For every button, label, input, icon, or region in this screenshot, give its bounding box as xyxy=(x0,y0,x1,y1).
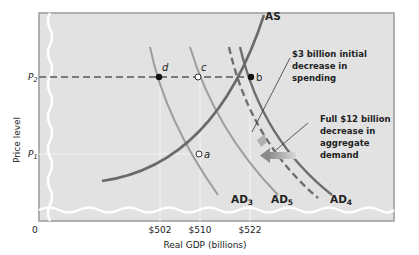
x-axis-title: Real GDP (billions) xyxy=(163,240,246,250)
y-axis-title: Price level xyxy=(12,117,22,163)
point-a xyxy=(196,151,202,157)
as-label: AS xyxy=(265,10,281,22)
point-d xyxy=(156,74,162,80)
svg-text:demand: demand xyxy=(320,150,359,160)
x-tick-502: $502 xyxy=(149,225,172,235)
y-tick-p2: P2 xyxy=(28,72,38,84)
chart-canvas: d c b a AS AD3 AD5 AD4 $3 billion initia… xyxy=(0,0,419,255)
x-tick-522: $522 xyxy=(239,225,262,235)
svg-text:aggregate: aggregate xyxy=(320,138,370,148)
svg-text:spending: spending xyxy=(292,73,336,83)
point-b xyxy=(248,74,254,80)
svg-text:decrease in: decrease in xyxy=(320,126,375,136)
point-a-label: a xyxy=(204,149,210,160)
svg-text:Full $12 billion: Full $12 billion xyxy=(320,114,391,124)
x-tick-0: 0 xyxy=(32,225,38,235)
point-d-label: d xyxy=(162,62,169,73)
svg-text:$3 billion initial: $3 billion initial xyxy=(292,49,367,59)
svg-text:decrease in: decrease in xyxy=(292,61,347,71)
point-c-label: c xyxy=(201,62,207,73)
point-c xyxy=(195,74,201,80)
point-b-label: b xyxy=(256,72,262,83)
x-tick-510: $510 xyxy=(189,225,212,235)
y-tick-p1: P1 xyxy=(28,149,38,161)
